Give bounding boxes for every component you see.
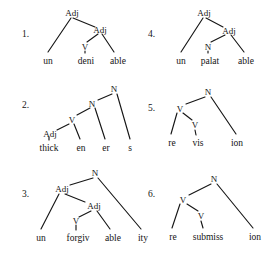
tree-6-node-v1: V [180, 196, 187, 205]
tree-6-leaf-ion: ion [249, 233, 261, 243]
branch-v1-to-v2 [187, 204, 198, 211]
tree-6-branches [0, 0, 273, 253]
branch-n-to-v1 [189, 184, 211, 195]
branch-n-to-ion [217, 184, 253, 228]
tree-6-node-root: N [211, 175, 218, 184]
branch-v1-to-re [172, 204, 180, 228]
tree-6-number: 6. [148, 190, 155, 200]
branch-v2-to-submiss [201, 221, 203, 228]
worksheet-sheet: 1. Adj Adj V un deni able 2. N N V Adj [0, 0, 273, 253]
tree-6-node-v2: V [198, 212, 205, 221]
tree-6-leaf-re: re [169, 233, 176, 243]
tree-6-leaf-submiss: submiss [193, 233, 224, 243]
